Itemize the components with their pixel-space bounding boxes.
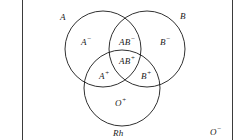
circle-label-rh-text: Rh [113,128,123,138]
region-label-ab-negative-base: AB [119,37,130,47]
region-label-ab-positive: AB+ [119,57,135,66]
venn-diagram-canvas [0,0,243,140]
region-label-o-positive-sign: + [122,96,127,104]
region-label-ab-negative: AB− [119,38,135,47]
region-label-ab-negative-sign: − [130,35,135,43]
region-label-o-positive: O+ [115,99,127,108]
page-rule-left [22,0,23,140]
region-label-a-negative: A− [81,38,92,47]
circle-label-a: A [60,13,66,22]
region-label-b-positive: B+ [141,72,152,81]
region-label-b-negative: B− [160,38,171,47]
region-label-a-negative-sign: − [87,35,92,43]
circle-label-a-text: A [60,12,66,22]
outside-label-o-negative-sign: − [217,125,222,133]
region-label-o-positive-base: O [115,98,122,108]
diagram-page: A B Rh A− AB− B− AB+ A+ B+ O+ O− [0,0,243,140]
region-label-b-negative-sign: − [166,35,171,43]
region-label-a-positive: A+ [99,72,110,81]
outside-label-o-negative: O− [210,128,222,137]
region-label-a-positive-sign: + [105,69,110,77]
circle-label-rh: Rh [113,129,123,138]
outside-label-o-negative-base: O [210,127,217,137]
region-label-ab-positive-sign: + [130,54,135,62]
region-label-b-positive-sign: + [147,69,152,77]
region-label-ab-positive-base: AB [119,56,130,66]
page-rule-right [232,0,233,140]
circle-label-b: B [180,12,186,21]
circle-label-b-text: B [180,11,186,21]
